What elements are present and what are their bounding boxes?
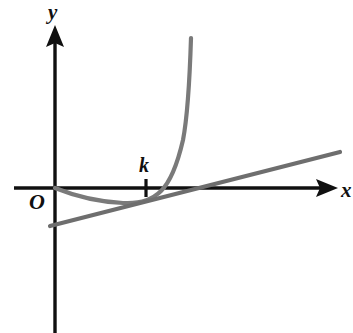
curve-exponential	[55, 38, 191, 203]
figure-root: y x O k	[0, 0, 353, 333]
tick-label-k: k	[139, 155, 149, 175]
graph-canvas	[0, 0, 353, 333]
origin-label: O	[29, 191, 45, 213]
x-axis-label: x	[341, 180, 352, 201]
y-axis-label: y	[48, 2, 57, 23]
